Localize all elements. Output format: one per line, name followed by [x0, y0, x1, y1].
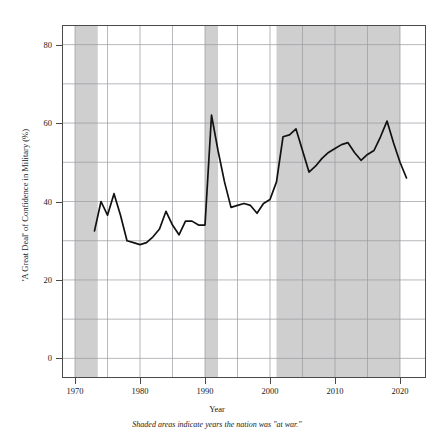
x-tick-label: 2020 [392, 386, 409, 396]
x-tick-label: 1970 [67, 386, 84, 396]
x-tick-mark [270, 378, 271, 384]
x-tick-label: 1990 [197, 386, 214, 396]
plot-frame [62, 25, 426, 378]
y-tick-label: 80 [12, 40, 52, 50]
x-axis-title: Year [0, 404, 434, 414]
y-tick-label: 20 [12, 275, 52, 285]
x-tick-mark [140, 378, 141, 384]
y-axis-title: 'A Great Deal' of Confidence in Military… [20, 45, 30, 365]
x-tick-label: 1980 [132, 386, 149, 396]
x-tick-mark [205, 378, 206, 384]
plot-area [62, 25, 426, 378]
x-tick-mark [335, 378, 336, 384]
x-tick-mark [75, 378, 76, 384]
x-tick-label: 2000 [262, 386, 279, 396]
y-tick-label: 60 [12, 118, 52, 128]
chart-figure: 020406080197019801990200020102020 'A Gre… [0, 0, 434, 448]
x-tick-mark [400, 378, 401, 384]
chart-caption: Shaded areas indicate years the nation w… [0, 420, 434, 429]
y-tick-label: 40 [12, 197, 52, 207]
x-tick-label: 2010 [327, 386, 344, 396]
y-tick-label: 0 [12, 353, 52, 363]
